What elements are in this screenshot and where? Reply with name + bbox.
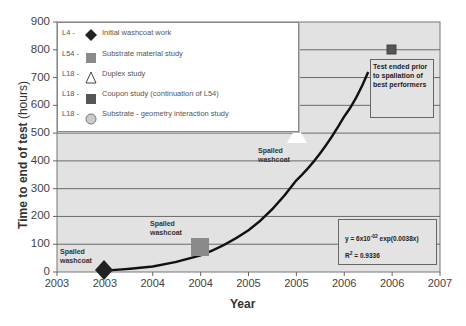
trendline-equation-box: y = 6x10-02 exp(0.0038x) R2 = 0.9336	[338, 219, 437, 265]
annotation-line: washcoat	[150, 228, 182, 237]
marker-coupon-square	[387, 45, 396, 54]
y-tick-label: 0	[10, 265, 50, 277]
y-tick-label: 800	[10, 43, 50, 55]
marker-substrate-material-square	[191, 238, 209, 256]
annotation-line: Test ended prior	[373, 62, 431, 71]
legend-label: Initial washcoat work	[102, 28, 171, 37]
legend-item-coupon: L18 - Coupon study (continuation of L54)	[58, 89, 298, 107]
y-axis-label-bold: Time to end of test	[16, 122, 30, 228]
trendline-equation: y = 6x10-02 exp(0.0038x)	[345, 233, 419, 242]
annotation-line: washcoat	[258, 155, 290, 164]
x-tick-label: 2003	[37, 277, 77, 289]
legend-item-substrate-material: L54 - Substrate material study	[58, 49, 298, 67]
y-tick-label: 900	[10, 15, 50, 27]
x-tick-label: 2004	[133, 277, 173, 289]
annotation-spalled-washcoat-1: Spalled washcoat	[60, 247, 92, 265]
x-axis-label: Year	[230, 297, 255, 311]
trendline-r-squared: R2 = 0.9336	[345, 250, 380, 259]
annotation-line: Spalled	[150, 219, 182, 228]
annotation-spalled-washcoat-2: Spalled washcoat	[150, 219, 182, 237]
equation-base: y = 6x10	[345, 235, 370, 242]
legend-label: Substrate - geometry interaction study	[102, 109, 229, 118]
x-tick-label: 2005	[229, 277, 269, 289]
y-axis-label: Time to end of test (hours)	[16, 70, 30, 240]
equation-tail: exp(0.0038x)	[378, 235, 419, 242]
r2-value: = 0.9336	[352, 252, 379, 259]
legend-code: L18 -	[62, 89, 79, 98]
legend-label: Substrate material study	[102, 49, 183, 58]
annotation-line: Spalled	[258, 146, 290, 155]
diamond-icon	[85, 29, 97, 41]
legend: L4 - Initial washcoat work L54 - Substra…	[57, 22, 299, 132]
legend-code: L18 -	[62, 69, 79, 78]
x-tick-label: 2006	[372, 277, 412, 289]
legend-code: L18 -	[62, 109, 79, 118]
annotation-line: to spallation of	[373, 71, 431, 80]
legend-label: Coupon study (continuation of L54)	[102, 89, 219, 98]
annotation-line: washcoat	[60, 256, 92, 265]
x-tick-marks	[57, 272, 440, 276]
annotation-test-ended: Test ended prior to spallation of best p…	[370, 59, 434, 118]
x-tick-label: 2007	[420, 277, 460, 289]
x-tick-label: 2004	[181, 277, 221, 289]
legend-item-substrate-geometry: L18 - Substrate - geometry interaction s…	[58, 109, 298, 127]
equation-exponent: -02	[370, 233, 377, 239]
legend-code: L4 -	[62, 28, 75, 37]
legend-item-duplex: L18 - Duplex study	[58, 69, 298, 87]
legend-item-initial-washcoat: L4 - Initial washcoat work	[58, 28, 298, 46]
legend-label: Duplex study	[102, 69, 145, 78]
annotation-spalled-washcoat-3: Spalled washcoat	[258, 146, 290, 164]
annotation-line: best performers	[373, 80, 431, 89]
square-icon	[85, 93, 97, 105]
annotation-line: Spalled	[60, 247, 92, 256]
x-tick-label: 2005	[276, 277, 316, 289]
legend-code: L54 -	[62, 49, 79, 58]
x-tick-label: 2006	[324, 277, 364, 289]
triangle-icon	[85, 71, 97, 84]
square-icon	[85, 52, 97, 64]
circle-icon	[85, 113, 97, 125]
x-tick-label: 2003	[85, 277, 125, 289]
y-axis-label-unit: (hours)	[16, 81, 30, 119]
